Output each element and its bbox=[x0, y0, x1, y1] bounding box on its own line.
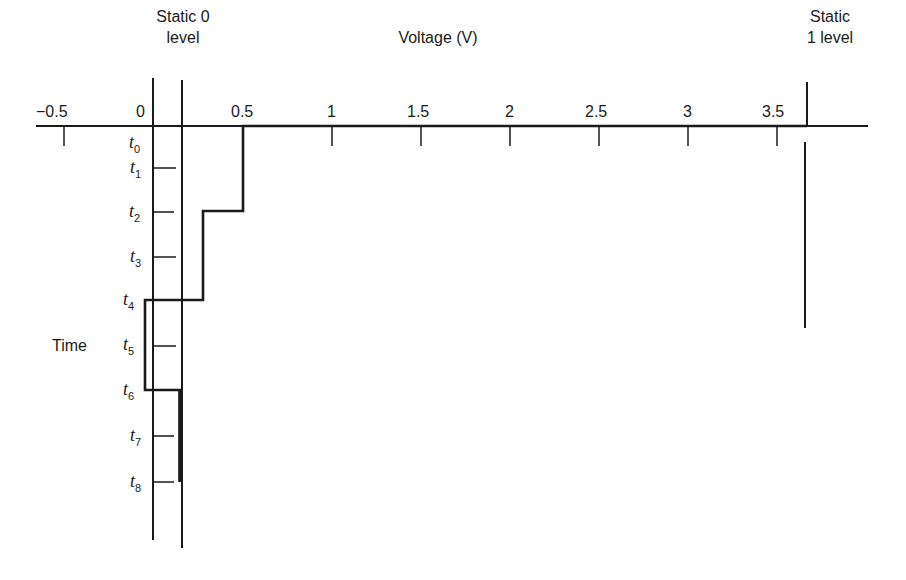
tick-label: 2.5 bbox=[585, 103, 607, 121]
time-label-t5: t5 bbox=[123, 334, 134, 357]
time-label-t3: t3 bbox=[130, 246, 141, 269]
time-label-t2: t2 bbox=[129, 201, 140, 224]
voltage-waveform bbox=[145, 126, 807, 482]
tick-label: 2 bbox=[505, 103, 514, 121]
tick-label: 3 bbox=[683, 103, 692, 121]
static-1-label-line1: Static bbox=[807, 8, 853, 26]
static-0-label-line2: level bbox=[156, 29, 209, 47]
tick-label: −0.5 bbox=[36, 103, 68, 121]
time-label-t4: t4 bbox=[123, 289, 134, 312]
time-label-t0: t0 bbox=[129, 132, 140, 155]
time-label-t1: t1 bbox=[130, 157, 141, 180]
tick-label: 3.5 bbox=[762, 103, 784, 121]
static-1-label: Static 1 level bbox=[807, 8, 853, 47]
tick-label: 1.5 bbox=[407, 103, 429, 121]
voltage-axis-label: Voltage (V) bbox=[398, 29, 477, 47]
tick-label: 1 bbox=[327, 103, 336, 121]
tick-label: 0 bbox=[136, 103, 145, 121]
tick-label: 0.5 bbox=[231, 103, 253, 121]
time-label-t7: t7 bbox=[130, 425, 141, 448]
static-1-label-line2: 1 level bbox=[807, 29, 853, 47]
time-label-t6: t6 bbox=[123, 379, 134, 402]
static-0-label: Static 0 level bbox=[156, 8, 209, 47]
time-label-t8: t8 bbox=[130, 471, 141, 494]
static-0-label-line1: Static 0 bbox=[156, 8, 209, 26]
time-axis-label: Time bbox=[52, 337, 87, 355]
